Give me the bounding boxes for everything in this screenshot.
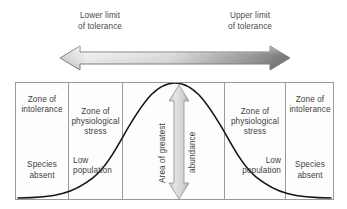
zone-box: Area of greatest abundance Zone of intol…	[15, 82, 334, 200]
upper-limit-label: Upper limit of tolerance	[210, 11, 290, 32]
zone-stress-left: Zone of physiological stress Low populat…	[69, 83, 122, 199]
zone-stress-right: Zone of physiological stress Low populat…	[225, 83, 285, 199]
zone-stress-right-subtitle: Low population	[242, 156, 285, 176]
tolerance-diagram: Lower limit of tolerance Upper limit of …	[0, 0, 347, 209]
zone-divider-3	[224, 83, 225, 199]
zone-stress-left-subtitle: Low population	[69, 156, 112, 176]
area-of-greatest-label: Area of greatest	[158, 123, 167, 183]
tolerance-range-arrow-icon	[58, 44, 292, 72]
zone-divider-2	[122, 83, 123, 199]
abundance-label: abundance	[188, 132, 197, 173]
zone-intolerance-right: Zone of intolerance Species absent	[286, 83, 334, 199]
zone-divider-1	[68, 83, 69, 199]
zone-intolerance-right-subtitle: Species absent	[295, 160, 325, 180]
zone-stress-left-title: Zone of physiological stress	[71, 107, 119, 138]
zone-intolerance-left-title: Zone of intolerance	[21, 95, 62, 115]
zone-intolerance-right-title: Zone of intolerance	[289, 95, 330, 115]
lower-limit-label: Lower limit of tolerance	[60, 11, 140, 32]
zone-divider-4	[285, 83, 286, 199]
zone-intolerance-left-subtitle: Species absent	[27, 160, 57, 180]
zone-stress-right-title: Zone of physiological stress	[231, 107, 279, 138]
zone-intolerance-left: Zone of intolerance Species absent	[16, 83, 68, 199]
